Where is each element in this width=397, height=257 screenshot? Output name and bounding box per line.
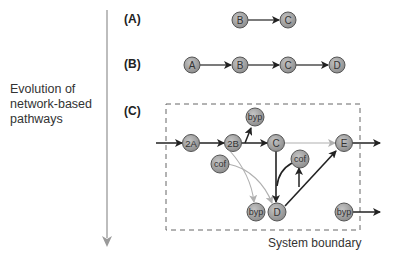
node-b-d: D <box>329 57 345 73</box>
node-c-c: C <box>268 135 285 152</box>
node-b-b: B <box>232 57 248 73</box>
svg-text:D: D <box>333 60 340 71</box>
node-c-e: E <box>336 135 353 152</box>
node-c-byp-top: byp <box>246 108 264 126</box>
node-b-a: A <box>184 57 200 73</box>
node-c-cof-right: cof <box>291 150 309 168</box>
pathway-diagram: B C A B C D 2A 2B <box>0 0 397 257</box>
svg-text:cof: cof <box>294 154 307 164</box>
node-a-c: C <box>280 12 296 28</box>
node-c-byp-right: byp <box>335 203 353 221</box>
svg-text:C: C <box>284 60 291 71</box>
node-c-2b: 2B <box>225 135 242 152</box>
system-boundary-label: System boundary <box>268 236 361 250</box>
node-c-2a: 2A <box>183 135 200 152</box>
svg-text:E: E <box>341 138 348 149</box>
svg-text:byp: byp <box>337 207 352 217</box>
node-c-byp-bottom: byp <box>247 203 265 221</box>
svg-text:A: A <box>189 60 196 71</box>
svg-text:C: C <box>272 138 279 149</box>
node-a-b: B <box>232 12 248 28</box>
svg-text:byp: byp <box>248 112 263 122</box>
node-c-d: D <box>268 203 286 221</box>
svg-text:2A: 2A <box>185 138 197 149</box>
svg-text:byp: byp <box>249 207 264 217</box>
svg-text:B: B <box>237 15 244 26</box>
evolution-axis-arrow <box>102 10 112 247</box>
svg-text:cof: cof <box>214 159 227 169</box>
node-c-cof-left: cof <box>211 155 229 173</box>
svg-text:C: C <box>284 15 291 26</box>
node-b-c: C <box>280 57 296 73</box>
svg-text:2B: 2B <box>227 138 239 149</box>
svg-text:B: B <box>237 60 244 71</box>
svg-text:D: D <box>273 207 280 218</box>
